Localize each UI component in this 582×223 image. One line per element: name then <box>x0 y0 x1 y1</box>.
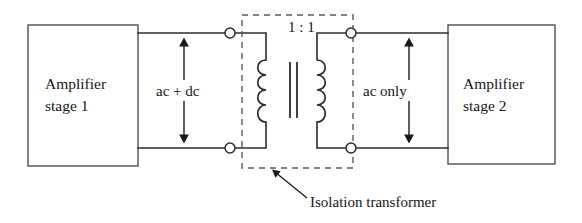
amplifier-stage-1-label-line2: stage 1 <box>45 97 88 114</box>
wire-primary-top-lead <box>234 33 266 60</box>
wire-primary-bottom-lead <box>234 122 266 148</box>
transformer-primary-winding <box>258 60 266 122</box>
isolation-transformer-diagram: Amplifier stage 1 Amplifier stage 2 <box>0 0 582 223</box>
wire-secondary-top-lead <box>317 33 348 60</box>
primary-coil-loops <box>258 60 266 122</box>
amplifier-stage-1-block: Amplifier stage 1 <box>28 25 138 166</box>
amplifier-stage-1-box <box>28 25 138 166</box>
turns-ratio-label: 1 : 1 <box>288 19 315 35</box>
circuit-schematic-canvas: Amplifier stage 1 Amplifier stage 2 <box>0 0 582 223</box>
terminal-secondary-bottom <box>346 143 356 153</box>
ac-only-measurement: ac only <box>363 42 409 139</box>
ac-plus-dc-label: ac + dc <box>156 83 200 99</box>
isolation-transformer-callout: Isolation transformer <box>275 172 436 210</box>
transformer-core <box>290 62 297 118</box>
terminal-secondary-top <box>346 28 356 38</box>
ac-only-label: ac only <box>363 83 407 99</box>
amplifier-stage-2-box <box>448 25 555 164</box>
amplifier-stage-2-block: Amplifier stage 2 <box>448 25 555 164</box>
terminal-primary-bottom <box>225 143 235 153</box>
secondary-coil-loops <box>317 60 325 122</box>
callout-caption: Isolation transformer <box>310 194 436 210</box>
amplifier-stage-2-label-line1: Amplifier <box>463 75 525 92</box>
transformer-secondary-winding <box>317 60 325 122</box>
amplifier-stage-2-label-line2: stage 2 <box>463 97 506 114</box>
ac-plus-dc-measurement: ac + dc <box>156 42 200 139</box>
terminal-primary-top <box>225 28 235 38</box>
wire-secondary-bottom-lead <box>317 122 348 148</box>
callout-leader-arrow <box>275 172 307 198</box>
amplifier-stage-1-label-line1: Amplifier <box>45 75 107 92</box>
